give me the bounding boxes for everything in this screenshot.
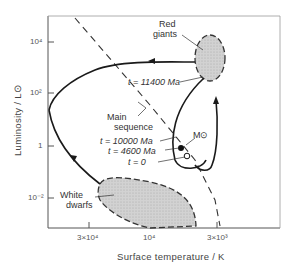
marker-t-0: [184, 153, 190, 159]
main-sequence-label-1: Main: [107, 112, 127, 122]
x-tick-3e3: 3×10³: [207, 233, 228, 242]
white-dwarfs-region: [98, 178, 196, 228]
white-dwarfs-label-2: dwarfs: [66, 200, 93, 210]
t-0-label: t = 0: [128, 157, 146, 167]
sun-mass-label: M⊙: [193, 130, 209, 140]
red-giants-region: [195, 35, 225, 81]
y-tick-1e2: 10²: [30, 88, 42, 97]
t-10000-label: t = 10000 Ma: [100, 136, 153, 146]
x-tick-1e4: 10⁴: [143, 233, 155, 242]
t-11400-label: t = 11400 Ma: [128, 77, 180, 87]
main-sequence-label-2: sequence: [114, 122, 153, 132]
y-tick-1e-2: 10⁻²: [28, 193, 44, 202]
x-tick-3e4: 3×10⁴: [77, 233, 98, 242]
white-dwarfs-label-1: White: [60, 190, 83, 200]
y-tick-1e4: 10⁴: [30, 37, 42, 46]
t-4600-label: t = 4600 Ma: [108, 146, 156, 156]
arrowhead-left: [148, 58, 155, 64]
red-giants-label-1: Red: [159, 19, 176, 29]
y-axis-title: Luminosity / L⊙: [12, 85, 23, 156]
red-giants-label-2: giants: [153, 29, 177, 39]
arrowhead-up: [213, 96, 219, 104]
x-axis-title: Surface temperature / K: [117, 251, 225, 262]
arrowhead-down: [70, 155, 77, 162]
y-tick-1: 1: [38, 141, 42, 150]
